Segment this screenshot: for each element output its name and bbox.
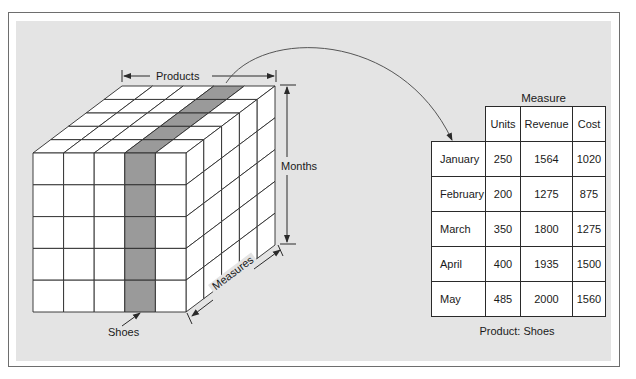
front-cell <box>33 280 64 312</box>
front-cell <box>94 185 125 217</box>
highlighted-front-cell <box>125 280 156 312</box>
revenue-cell: 1564 <box>521 142 573 177</box>
front-cell <box>94 248 125 280</box>
table-row: April 400 1935 1500 <box>432 247 606 282</box>
units-cell: 400 <box>486 247 521 282</box>
row-label: February <box>432 177 486 212</box>
front-cell <box>33 248 64 280</box>
front-cell <box>155 248 186 280</box>
front-cell <box>64 217 95 249</box>
cost-cell: 875 <box>573 177 606 212</box>
front-cell <box>94 280 125 312</box>
front-cell <box>64 153 95 185</box>
front-cell <box>94 153 125 185</box>
front-cell <box>94 217 125 249</box>
column-header-revenue: Revenue <box>521 107 573 142</box>
highlighted-front-cell <box>125 217 156 249</box>
months-axis-label: Months <box>280 159 318 174</box>
front-cell <box>33 153 64 185</box>
table-row: February 200 1275 875 <box>432 177 606 212</box>
front-cell <box>155 153 186 185</box>
front-cell <box>64 185 95 217</box>
cube <box>33 86 275 312</box>
revenue-cell: 1275 <box>521 177 573 212</box>
revenue-cell: 1935 <box>521 247 573 282</box>
highlighted-front-cell <box>125 248 156 280</box>
products-axis-label: Products <box>153 71 202 82</box>
cost-cell: 1275 <box>573 212 606 247</box>
corner-cell <box>432 107 486 142</box>
row-label: March <box>432 212 486 247</box>
front-cell <box>155 217 186 249</box>
shoes-pointer-arrow <box>122 313 140 326</box>
revenue-cell: 1800 <box>521 212 573 247</box>
table-caption: Product: Shoes <box>431 325 603 337</box>
table-row: March 350 1800 1275 <box>432 212 606 247</box>
front-cell <box>33 217 64 249</box>
row-label: January <box>432 142 486 177</box>
row-label: April <box>432 247 486 282</box>
table-row: January 250 1564 1020 <box>432 142 606 177</box>
column-header-units: Units <box>486 107 521 142</box>
front-cell <box>64 280 95 312</box>
table-header-row: Units Revenue Cost <box>432 107 606 142</box>
front-cell <box>33 185 64 217</box>
cost-cell: 1560 <box>573 282 606 317</box>
units-cell: 250 <box>486 142 521 177</box>
table-row: May 485 2000 1560 <box>432 282 606 317</box>
highlighted-front-cell <box>125 185 156 217</box>
front-cell <box>64 248 95 280</box>
units-cell: 485 <box>486 282 521 317</box>
measure-title: Measure <box>484 92 603 104</box>
units-cell: 350 <box>486 212 521 247</box>
row-label: May <box>432 282 486 317</box>
front-cell <box>155 185 186 217</box>
column-header-cost: Cost <box>573 107 606 142</box>
cost-cell: 1020 <box>573 142 606 177</box>
units-cell: 200 <box>486 177 521 212</box>
front-cell <box>155 280 186 312</box>
highlighted-front-cell <box>125 153 156 185</box>
revenue-cell: 2000 <box>521 282 573 317</box>
cost-cell: 1500 <box>573 247 606 282</box>
slice-table: Units Revenue Cost January 250 1564 1020… <box>431 106 606 317</box>
shoes-slice-label: Shoes <box>108 327 139 338</box>
